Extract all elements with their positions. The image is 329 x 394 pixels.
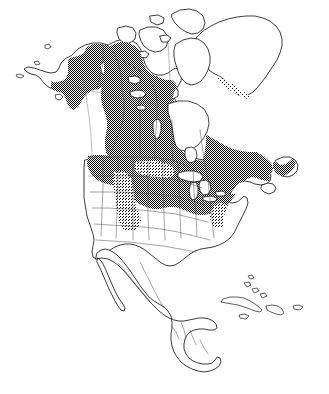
island-alaska-small-2 (34, 61, 40, 65)
island-puerto-rico (293, 305, 303, 310)
coastline-arctic-island-small-1 (150, 15, 164, 25)
island-jamaica (239, 314, 249, 319)
water-great-slave-lake (130, 90, 146, 98)
border-central-america-3 (200, 340, 208, 354)
island-kodiak (55, 94, 63, 100)
island-cuba (221, 297, 262, 312)
north-america-map (0, 0, 329, 394)
island-bahamas-1 (244, 282, 251, 287)
coastline-nova-scotia (261, 183, 276, 194)
border-mexico-internal-1 (118, 263, 150, 301)
range-map-figure (0, 0, 329, 394)
island-hispaniola (266, 305, 284, 315)
coastline-aleutians (16, 74, 24, 78)
island-bahamas-2 (252, 288, 259, 293)
island-bahamas-4 (248, 275, 254, 279)
island-alaska-small-1 (45, 44, 51, 49)
coastline-ellesmere-island (172, 9, 205, 34)
coastline-arctic-island-small-2 (160, 35, 171, 42)
water-lake-ontario (215, 191, 226, 196)
island-bahamas-3 (260, 293, 267, 298)
water-james-bay (185, 147, 197, 163)
border-central-america-2 (190, 330, 196, 345)
coastline-mexico (96, 249, 221, 372)
